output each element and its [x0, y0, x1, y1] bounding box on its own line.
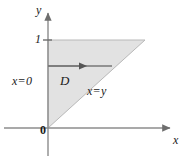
- y-axis-label: y: [36, 4, 41, 16]
- x-axis-label: x: [173, 134, 178, 146]
- boundary-xy-value: y: [101, 84, 106, 98]
- boundary-x0-equals: =: [17, 74, 26, 88]
- origin-label: 0: [40, 124, 46, 136]
- boundary-label-x-equals-y: x=y: [87, 85, 106, 97]
- region-label-d: D: [60, 74, 69, 87]
- boundary-label-x-equals-0: x=0: [12, 75, 32, 87]
- y-tick-label-1: 1: [35, 33, 41, 45]
- boundary-xy-equals: =: [92, 84, 101, 98]
- boundary-x0-value: 0: [26, 74, 32, 88]
- figure-region-d: y x 1 0 x=0 D x=y: [0, 0, 189, 160]
